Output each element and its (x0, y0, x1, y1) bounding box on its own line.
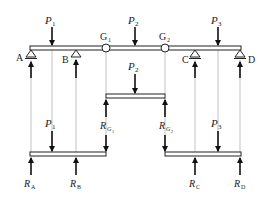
reaction-rb: R B (69, 158, 81, 190)
middle-beam (106, 94, 165, 98)
svg-text:D: D (248, 54, 255, 65)
svg-text:R: R (233, 178, 240, 189)
svg-text:2: 2 (167, 37, 170, 43)
svg-text:P: P (127, 14, 135, 26)
svg-text:B: B (77, 184, 81, 190)
svg-text:2: 2 (135, 20, 139, 28)
middle-reaction-rg1: R G 1 (99, 100, 114, 134)
svg-text:A: A (16, 52, 24, 63)
svg-text:P: P (210, 14, 218, 26)
svg-text:1: 1 (52, 123, 56, 131)
right-load-p3: P 3 (210, 117, 222, 151)
hinge-g1: G 1 (100, 31, 111, 52)
svg-text:G: G (159, 31, 166, 42)
middle-load-p2: P 2 (127, 60, 139, 93)
svg-text:1: 1 (108, 37, 111, 43)
svg-text:C: C (182, 54, 189, 65)
svg-text:2: 2 (135, 66, 139, 74)
right-beam (165, 152, 241, 156)
top-load-p2: P 2 (127, 14, 139, 45)
top-load-p1: P 1 (44, 14, 56, 45)
top-beam (30, 46, 241, 50)
svg-text:R: R (23, 178, 30, 189)
support-c: C (182, 50, 201, 78)
middle-reaction-rg2: R G 2 (158, 100, 173, 134)
reaction-rd: R D (233, 158, 246, 190)
reaction-rc: R C (188, 158, 200, 190)
svg-text:3: 3 (218, 20, 222, 28)
svg-text:P: P (44, 117, 52, 129)
svg-text:R: R (158, 120, 165, 131)
svg-text:1: 1 (52, 20, 56, 28)
svg-text:C: C (196, 184, 200, 190)
svg-text:2: 2 (171, 129, 173, 134)
svg-text:G: G (100, 31, 107, 42)
svg-text:A: A (31, 184, 36, 190)
svg-text:R: R (188, 178, 195, 189)
left-load-p1: P 1 (44, 117, 56, 151)
svg-text:1: 1 (112, 129, 114, 134)
svg-text:P: P (210, 117, 218, 129)
hinge-g2: G 2 (159, 31, 170, 52)
gerber-beam-diagram: P 1 P 2 P 3 G 1 G 2 A B C (0, 0, 270, 198)
svg-text:B: B (62, 54, 69, 65)
svg-text:R: R (99, 120, 106, 131)
support-d: D (234, 50, 255, 78)
support-b: B (62, 50, 81, 78)
support-a: A (16, 50, 37, 78)
left-beam (30, 152, 106, 156)
top-load-p3: P 3 (210, 14, 222, 45)
svg-text:P: P (44, 14, 52, 26)
svg-text:P: P (127, 60, 135, 72)
reaction-ra: R A (23, 158, 36, 190)
svg-text:R: R (69, 178, 76, 189)
svg-text:3: 3 (218, 123, 222, 131)
svg-text:D: D (241, 184, 246, 190)
